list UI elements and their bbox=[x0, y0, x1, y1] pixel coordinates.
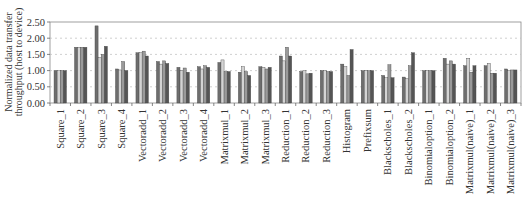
bar bbox=[361, 71, 364, 103]
bar bbox=[63, 71, 66, 103]
bar bbox=[115, 69, 118, 103]
bar bbox=[449, 61, 452, 103]
bar bbox=[245, 72, 248, 103]
x-tick-label: Square_4 bbox=[116, 108, 127, 148]
bar bbox=[186, 72, 189, 103]
bar bbox=[218, 63, 221, 104]
bar bbox=[487, 63, 490, 103]
x-tick-label: Reduction_3 bbox=[321, 109, 332, 163]
x-tick-label: Matrixmul_1 bbox=[219, 109, 230, 164]
y-tick-label: 0.50 bbox=[27, 81, 45, 92]
bar bbox=[166, 63, 169, 103]
bar bbox=[122, 62, 125, 103]
bar bbox=[136, 53, 139, 103]
bar bbox=[101, 54, 104, 103]
bar bbox=[289, 56, 292, 103]
bar bbox=[177, 67, 180, 103]
x-tick-label: Binomialoption_1 bbox=[423, 109, 434, 185]
bar bbox=[490, 73, 493, 103]
bar bbox=[350, 50, 353, 103]
bar bbox=[104, 46, 107, 103]
bar bbox=[364, 71, 367, 103]
bar bbox=[160, 64, 163, 103]
bar bbox=[60, 71, 63, 103]
bar bbox=[303, 71, 306, 103]
bar bbox=[163, 61, 166, 103]
bar bbox=[125, 71, 128, 103]
bar bbox=[432, 71, 435, 103]
bar bbox=[300, 72, 303, 103]
bar-group bbox=[361, 71, 373, 103]
bar-group bbox=[443, 58, 455, 103]
x-tick-label: Vectoradd_1 bbox=[137, 109, 148, 162]
x-tick-label: Square_2 bbox=[75, 109, 86, 149]
bar bbox=[75, 47, 78, 103]
bar bbox=[514, 70, 517, 103]
chart-canvas: 0.000.501.001.502.002.50Normalized data … bbox=[0, 0, 526, 203]
bar bbox=[221, 60, 224, 103]
bar bbox=[268, 67, 271, 103]
bar bbox=[408, 66, 411, 103]
bar-group bbox=[136, 51, 148, 103]
bar bbox=[367, 71, 370, 103]
bar bbox=[511, 70, 514, 103]
x-tick-label: Matrixmul_3 bbox=[260, 109, 271, 164]
bar-group bbox=[197, 66, 209, 103]
x-tick-label: Binomialoption_2 bbox=[444, 109, 455, 185]
bar-group bbox=[259, 67, 271, 103]
x-tick-label: Matrixmul(naive)_1 bbox=[464, 109, 476, 194]
x-tick-label: Square_1 bbox=[55, 109, 66, 149]
x-tick-label: Reduction_1 bbox=[280, 109, 291, 163]
bar bbox=[452, 64, 455, 103]
bar bbox=[484, 66, 487, 103]
bar bbox=[262, 67, 265, 103]
bar bbox=[423, 71, 426, 103]
bar bbox=[493, 73, 496, 103]
bar bbox=[224, 72, 227, 103]
bar bbox=[145, 56, 148, 103]
bar bbox=[429, 71, 432, 103]
x-tick-label: Vectoradd_4 bbox=[198, 108, 209, 162]
x-tick-label: Histogram bbox=[341, 109, 352, 153]
svg-text:throughput (host to device): throughput (host to device) bbox=[13, 8, 25, 117]
bar bbox=[446, 64, 449, 103]
x-tick-label: Blackscholes_2 bbox=[403, 109, 414, 175]
bar-group bbox=[75, 47, 87, 103]
bar bbox=[326, 72, 329, 103]
bar-group bbox=[156, 61, 168, 103]
bar bbox=[309, 73, 312, 103]
x-tick-label: Reduction_2 bbox=[300, 109, 311, 163]
y-tick-label: 2.50 bbox=[27, 17, 45, 28]
bar bbox=[505, 69, 508, 103]
bar bbox=[344, 67, 347, 103]
y-tick-label: 0.00 bbox=[27, 98, 45, 109]
bar bbox=[54, 71, 57, 103]
y-tick-label: 1.50 bbox=[27, 49, 45, 60]
bar bbox=[259, 67, 262, 103]
bar bbox=[207, 67, 210, 103]
bar-group bbox=[423, 71, 435, 103]
bar bbox=[426, 71, 429, 103]
bar bbox=[306, 74, 309, 103]
bar bbox=[411, 53, 414, 103]
bar bbox=[402, 77, 405, 103]
x-tick-label: Matrixmul(naive)_2 bbox=[485, 109, 497, 194]
bar bbox=[227, 72, 230, 103]
x-tick-label: Matrixmul_2 bbox=[239, 109, 250, 164]
bar-group bbox=[505, 69, 517, 103]
bar bbox=[142, 51, 145, 103]
y-tick-label: 1.00 bbox=[27, 65, 45, 76]
bar bbox=[371, 71, 374, 103]
bar bbox=[197, 67, 200, 103]
y-axis-title: Normalized data transferthroughput (host… bbox=[3, 8, 25, 117]
bar bbox=[320, 71, 323, 103]
bar bbox=[382, 75, 385, 103]
bar bbox=[508, 71, 511, 103]
bar bbox=[443, 58, 446, 103]
bar bbox=[200, 69, 203, 103]
bar-group bbox=[177, 67, 189, 103]
bar bbox=[265, 69, 268, 103]
bar bbox=[57, 71, 60, 103]
bar bbox=[391, 78, 394, 103]
x-tick-label: Blackscholes_1 bbox=[382, 109, 393, 175]
